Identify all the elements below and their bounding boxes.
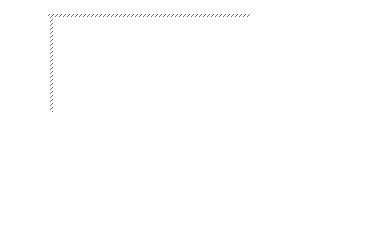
diagram-wiring bbox=[0, 0, 383, 247]
system-boundary bbox=[48, 14, 250, 112]
